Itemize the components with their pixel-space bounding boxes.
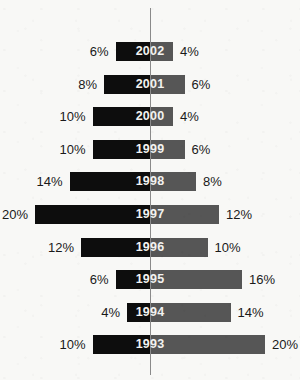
diverging-bar-chart: 20026%4%20018%6%200010%4%199910%6%199814… <box>0 0 300 380</box>
year-label: 1998 <box>120 172 180 191</box>
year-label: 1996 <box>120 238 180 257</box>
left-value-label: 6% <box>90 270 109 289</box>
left-value-label: 10% <box>59 107 85 126</box>
right-value-label: 12% <box>226 205 252 224</box>
chart-row: 19956%16% <box>0 270 300 289</box>
right-value-label: 8% <box>203 172 222 191</box>
right-value-label: 6% <box>192 140 211 159</box>
year-label: 1993 <box>120 335 180 354</box>
chart-row: 19944%14% <box>0 303 300 322</box>
chart-row: 200010%4% <box>0 107 300 126</box>
chart-row: 20018%6% <box>0 75 300 94</box>
year-label: 2000 <box>120 107 180 126</box>
left-value-label: 4% <box>101 303 120 322</box>
left-value-label: 10% <box>59 140 85 159</box>
left-value-label: 20% <box>2 205 28 224</box>
left-value-label: 10% <box>59 335 85 354</box>
left-value-label: 8% <box>78 75 97 94</box>
right-value-label: 16% <box>249 270 275 289</box>
year-label: 1997 <box>120 205 180 224</box>
left-value-label: 14% <box>36 172 62 191</box>
chart-row: 199910%6% <box>0 140 300 159</box>
chart-row: 199612%10% <box>0 238 300 257</box>
right-value-label: 14% <box>238 303 264 322</box>
chart-row: 20026%4% <box>0 42 300 61</box>
year-label: 1999 <box>120 140 180 159</box>
right-value-label: 10% <box>215 238 241 257</box>
chart-row: 199310%20% <box>0 335 300 354</box>
year-label: 1994 <box>120 303 180 322</box>
left-value-label: 12% <box>48 238 74 257</box>
left-value-label: 6% <box>90 42 109 61</box>
chart-row: 199814%8% <box>0 172 300 191</box>
right-value-label: 4% <box>180 107 199 126</box>
year-label: 1995 <box>120 270 180 289</box>
year-label: 2001 <box>120 75 180 94</box>
right-value-label: 20% <box>272 335 298 354</box>
chart-row: 199720%12% <box>0 205 300 224</box>
year-label: 2002 <box>120 42 180 61</box>
right-value-label: 4% <box>180 42 199 61</box>
right-value-label: 6% <box>192 75 211 94</box>
